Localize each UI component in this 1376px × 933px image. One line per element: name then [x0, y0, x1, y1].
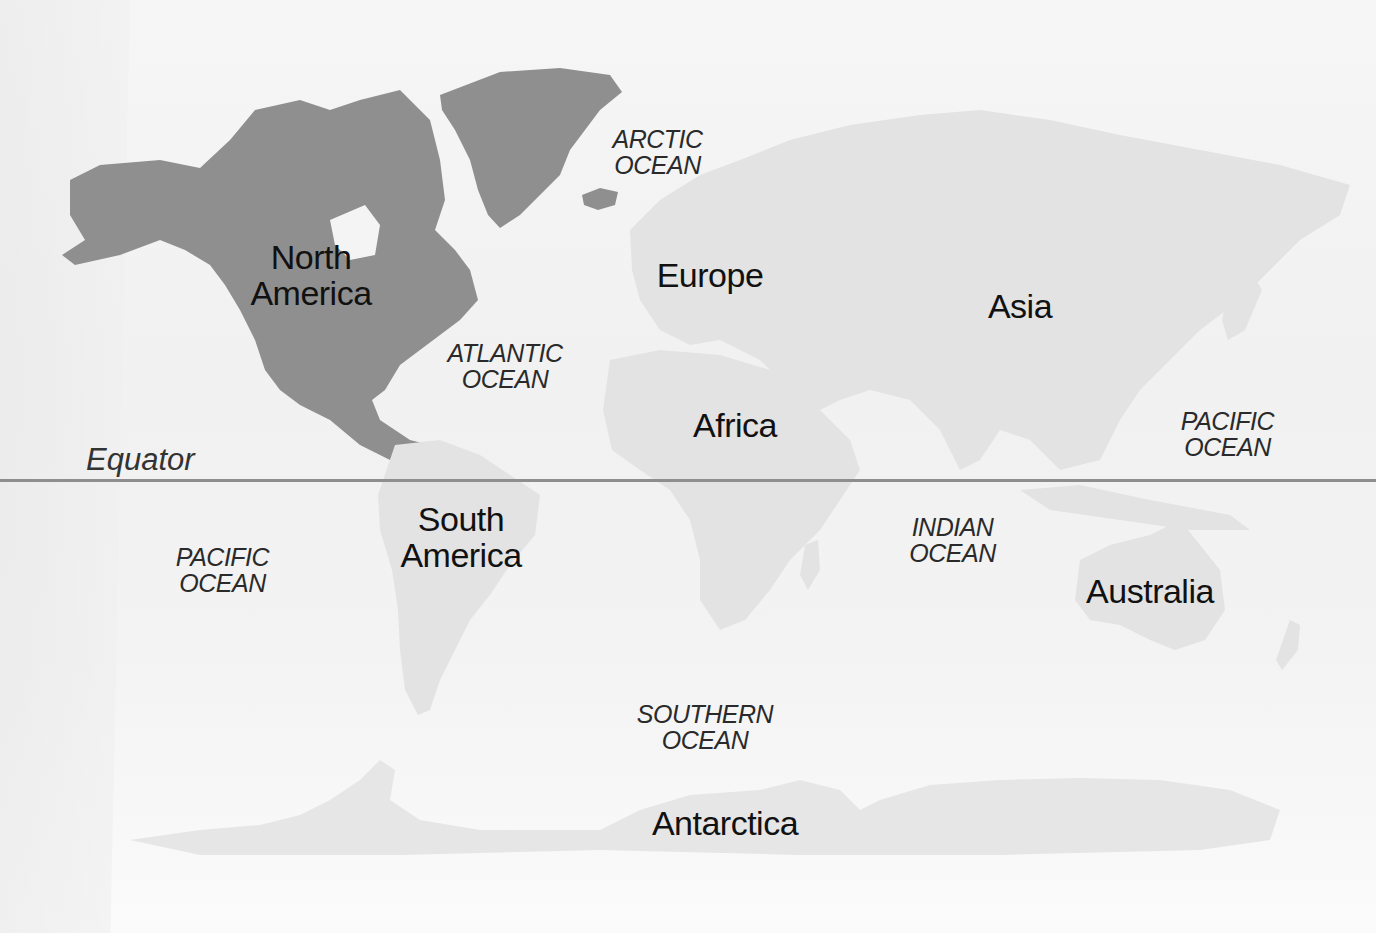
label-asia: Asia: [970, 289, 1070, 325]
label-southern-ocean: SOUTHERN OCEAN: [625, 701, 785, 754]
label-africa: Africa: [670, 408, 800, 444]
label-indian-ocean: INDIAN OCEAN: [890, 514, 1015, 567]
label-pacific-ocean-north: PACIFIC OCEAN: [1165, 408, 1290, 461]
equator-line: [0, 479, 1376, 482]
label-south-america: South America: [386, 502, 536, 573]
label-atlantic-ocean: ATLANTIC OCEAN: [440, 340, 570, 393]
madagascar-shape: [800, 540, 820, 590]
label-north-america: North America: [236, 240, 386, 311]
world-map: Equator North America South America Euro…: [0, 0, 1376, 933]
indonesia-shape: [1020, 485, 1250, 530]
label-pacific-ocean-south: PACIFIC OCEAN: [160, 544, 285, 597]
label-arctic-ocean: ARCTIC OCEAN: [595, 126, 720, 179]
equator-label: Equator: [86, 444, 195, 477]
label-australia: Australia: [1065, 574, 1235, 610]
label-antarctica: Antarctica: [635, 806, 815, 842]
label-europe: Europe: [640, 258, 780, 294]
new-zealand-shape: [1276, 620, 1300, 670]
iceland-shape: [582, 188, 618, 210]
